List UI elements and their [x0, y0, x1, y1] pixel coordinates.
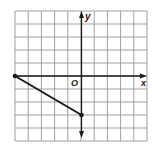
origin-label: O [71, 78, 78, 88]
y-axis-up-arrow-icon [79, 11, 84, 18]
coordinate-plane: y x O [0, 0, 152, 147]
y-axis [79, 11, 84, 138]
y-axis-down-arrow-icon [79, 131, 84, 138]
y-axis-label: y [84, 11, 91, 22]
segment-end-point [79, 113, 84, 118]
segment-start-point [13, 74, 18, 79]
x-axis-label: x [140, 78, 147, 88]
